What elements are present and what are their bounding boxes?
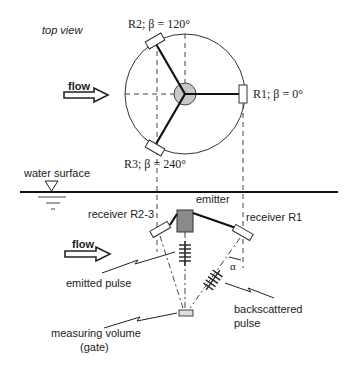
guide-lines <box>125 34 243 268</box>
receiver-r2-icon <box>145 33 165 49</box>
r3-label: R3; β = 240° <box>124 157 186 171</box>
flow-label-top: flow <box>68 80 90 92</box>
top-view-label: top view <box>42 24 83 36</box>
receiver-r23-label: receiver R2-3 <box>88 208 154 220</box>
gate-label: (gate) <box>80 341 109 353</box>
backscattered-label: backscattered <box>234 303 302 315</box>
receiver-r1-icon <box>239 85 247 103</box>
r1-label: R1; β = 0° <box>253 87 303 101</box>
backscattered-pulse-label: pulse <box>234 317 260 329</box>
measuring-volume-label: measuring volume <box>51 327 141 339</box>
probe-arms <box>156 44 243 144</box>
emitted-pulse-icon <box>179 241 191 266</box>
flow-label-side: flow <box>72 238 94 250</box>
r2-label: R2; β = 120° <box>128 17 190 31</box>
receiver-r1-label: receiver R1 <box>246 211 302 223</box>
backscattered-pulse-icon <box>201 267 225 294</box>
receiver-r3-icon <box>145 140 165 156</box>
emitted-pulse-label: emitted pulse <box>66 277 131 289</box>
emitter-icon <box>177 210 193 232</box>
arm-r23 <box>170 214 177 225</box>
receiver-r23-icon <box>150 221 171 237</box>
adv-probe-diagram: top view flow R2; β = 120° R1; β = 0° R3… <box>0 0 356 369</box>
water-surface-label: water surface <box>23 167 90 179</box>
arm-r1 <box>193 213 236 228</box>
water-level-icon <box>45 181 58 191</box>
measuring-volume-icon <box>179 310 193 316</box>
diagram-canvas: top view flow R2; β = 120° R1; β = 0° R3… <box>0 0 356 369</box>
alpha-label: α <box>230 260 236 272</box>
beam-lines <box>160 232 240 310</box>
flow-arrow-top: flow <box>64 80 108 102</box>
emitter-label: emitter <box>196 193 230 205</box>
receiver-r1-side-icon <box>232 224 253 240</box>
